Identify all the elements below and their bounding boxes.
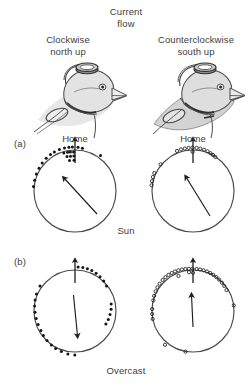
- mean-vector-arrow: [192, 295, 194, 327]
- home-label-a-right: Home: [165, 133, 221, 145]
- left-condition-label: Clockwise north up: [22, 34, 114, 57]
- orientation-plot-a-right: [150, 139, 234, 232]
- orientation-plot-b-right: [151, 260, 236, 353]
- panel-b-label: (b): [14, 256, 36, 268]
- mean-vector-arrow: [74, 295, 78, 336]
- figure-svg: [0, 0, 252, 387]
- home-label-a-left: Home: [47, 133, 103, 145]
- sun-condition-label: Sun: [96, 225, 156, 237]
- panel-a-label: (a): [14, 138, 36, 150]
- overcast-condition-label: Overcast: [86, 365, 166, 377]
- mean-vector-arrow: [186, 177, 210, 216]
- mean-vector-arrow: [64, 178, 97, 214]
- orientation-plot-a-left: [32, 139, 116, 232]
- current-flow-label: Current flow: [86, 6, 166, 29]
- right-condition-label: Counterclockwise south up: [140, 34, 252, 57]
- bird-head-clockwise-north-up: [34, 63, 127, 138]
- orientation-plot-b-left: [33, 260, 116, 357]
- bird-head-counterclockwise-south-up: [153, 63, 245, 138]
- figure-canvas: Current flow Clockwise north up Counterc…: [0, 0, 252, 387]
